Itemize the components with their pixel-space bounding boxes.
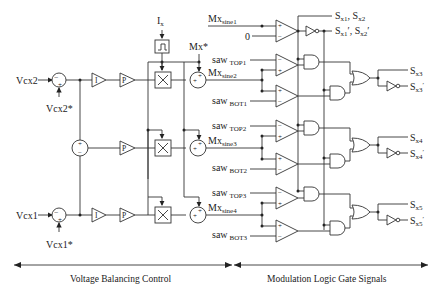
and-gate-bot1 <box>330 86 345 100</box>
mx-sine2-label: Mxsine2 <box>208 67 237 80</box>
svg-text:−: − <box>278 56 282 64</box>
plus-sign: + <box>58 81 62 89</box>
saw-top3-label: sawTOP3 <box>212 187 247 200</box>
section-label-voltage-balancing: Voltage Balancing Control <box>70 274 172 284</box>
vcx1-label: Vcx1 <box>16 210 38 221</box>
svg-text:−: − <box>278 233 282 241</box>
and-gate-top2 <box>304 121 319 135</box>
or-gate-1 <box>352 71 370 85</box>
control-diagram: Vcx2 − + Vcx2* I P + − P Vcx1 − + Vcx1* … <box>0 0 444 298</box>
saw-bot3-label: sawBOT3 <box>212 229 248 242</box>
vcx1-ref-label: Vcx1* <box>46 239 73 250</box>
svg-text:−: − <box>278 98 282 106</box>
output-sx3: Sx3 <box>410 65 423 78</box>
and-gate-bot3 <box>330 221 345 235</box>
output-sx4: Sx4 <box>410 132 423 145</box>
svg-text:+: + <box>193 145 197 153</box>
mx-ref-label: Mx* <box>189 41 208 52</box>
saw-top2-label: sawTOP2 <box>212 120 247 133</box>
svg-text:+: + <box>278 133 282 141</box>
or-gate-2 <box>352 138 370 152</box>
vcx2-ref-label: Vcx2* <box>46 103 73 114</box>
and-gate-top3 <box>304 187 319 201</box>
svg-text:+: + <box>198 72 202 80</box>
output-sx1-sx2-inverted: Sx1′, Sx2′ <box>335 25 370 38</box>
svg-text:+: + <box>278 67 282 75</box>
inverter-s5 <box>387 215 396 225</box>
svg-text:P: P <box>122 76 126 85</box>
saw-bot1-label: sawBOT1 <box>212 95 248 108</box>
vcx2-label: Vcx2 <box>16 75 38 86</box>
svg-text:+: + <box>58 216 62 224</box>
svg-text:−: − <box>278 33 282 41</box>
output-sx5: Sx5 <box>410 199 423 212</box>
sign-function-block <box>155 40 169 53</box>
and-gate-top1 <box>304 55 319 69</box>
svg-text:P: P <box>122 211 126 220</box>
svg-text:+: + <box>278 22 282 30</box>
mx-sine4-label: Mxsine4 <box>208 202 237 215</box>
svg-text:−: − <box>278 122 282 130</box>
section-label-modulation-logic: Modulation Logic Gate Signals <box>267 274 387 284</box>
output-sx5-inverted: Sx5′ <box>410 215 425 228</box>
svg-text:+: + <box>278 155 282 163</box>
or-gate-3 <box>352 205 370 219</box>
ix-label: Ix <box>157 15 164 28</box>
svg-text:−: − <box>278 189 282 197</box>
zero-label: 0 <box>245 31 250 42</box>
svg-text:−: − <box>78 149 82 157</box>
svg-text:+: + <box>278 87 282 95</box>
inverter-s3 <box>387 81 396 91</box>
svg-text:+: + <box>78 140 82 148</box>
svg-text:−: − <box>278 166 282 174</box>
svg-text:+: + <box>193 77 197 85</box>
output-sx1-sx2: Sx1, Sx2 <box>335 10 366 23</box>
svg-text:P: P <box>122 144 126 153</box>
svg-text:+: + <box>278 222 282 230</box>
svg-text:+: + <box>198 140 202 148</box>
svg-text:+: + <box>193 212 197 220</box>
mx-sine1-label: Mxsine1 <box>208 13 237 26</box>
saw-bot2-label: sawBOT2 <box>212 162 248 175</box>
svg-text:+: + <box>198 207 202 215</box>
output-sx4-inverted: Sx4′ <box>410 148 425 161</box>
inverter-s12 <box>306 26 315 36</box>
and-gate-bot2 <box>330 154 345 168</box>
saw-top1-label: sawTOP1 <box>212 54 247 67</box>
mx-sine3-label: Mxsine3 <box>208 135 237 148</box>
svg-text:+: + <box>278 200 282 208</box>
output-sx3-inverted: Sx3′ <box>410 81 425 94</box>
inverter-s4 <box>387 148 396 158</box>
